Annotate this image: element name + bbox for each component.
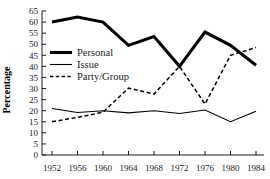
x-tick-label: 1960 xyxy=(94,163,113,173)
x-tick-label: 1976 xyxy=(196,163,215,173)
y-axis-title: Percentage xyxy=(1,66,12,114)
x-axis-tick-marks xyxy=(52,151,256,155)
y-tick-label: 40 xyxy=(29,62,39,72)
x-tick-label: 1968 xyxy=(145,163,164,173)
line-chart-canvas: 05101520253035404550556065 1952195619601… xyxy=(0,0,270,179)
y-tick-label: 65 xyxy=(29,6,39,16)
x-tick-label: 1952 xyxy=(43,163,61,173)
x-axis-tick-labels: 195219561960196419681972197619801984 xyxy=(43,163,266,173)
legend-label-party-group: Party/Group xyxy=(77,71,129,82)
x-tick-label: 1972 xyxy=(171,163,189,173)
y-tick-label: 20 xyxy=(29,106,39,116)
x-tick-label: 1956 xyxy=(69,163,88,173)
y-tick-label: 50 xyxy=(29,39,39,49)
y-tick-label: 55 xyxy=(29,28,39,38)
y-tick-label: 0 xyxy=(34,150,39,160)
y-tick-label: 15 xyxy=(29,117,39,127)
y-tick-label: 10 xyxy=(29,128,39,138)
x-tick-label: 1984 xyxy=(247,163,266,173)
y-axis-tick-labels: 05101520253035404550556065 xyxy=(29,6,39,160)
y-axis-tick-marks xyxy=(42,11,46,155)
x-tick-label: 1980 xyxy=(222,163,241,173)
series-line-issue xyxy=(52,108,256,121)
y-tick-label: 25 xyxy=(29,95,39,105)
x-tick-label: 1964 xyxy=(120,163,139,173)
y-tick-label: 60 xyxy=(29,17,39,27)
legend-label-issue: Issue xyxy=(77,59,99,70)
chart-figure: 05101520253035404550556065 1952195619601… xyxy=(0,0,270,179)
y-tick-label: 45 xyxy=(29,51,39,61)
y-tick-label: 30 xyxy=(29,84,39,94)
chart-legend: Personal Issue Party/Group xyxy=(50,47,129,82)
legend-label-personal: Personal xyxy=(77,47,113,58)
y-tick-label: 5 xyxy=(34,139,39,149)
y-tick-label: 35 xyxy=(29,73,39,83)
